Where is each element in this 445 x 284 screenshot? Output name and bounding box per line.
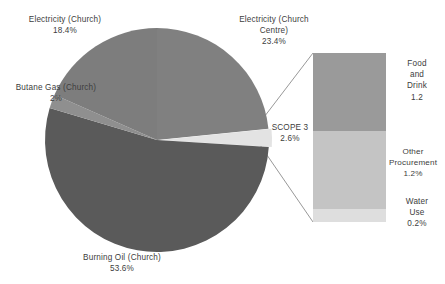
bar-label-food-and-drink-name-3: Drink [390,80,444,91]
pie-label-butane-gas: Butane Gas (Church) 2% [2,82,110,104]
pie-label-electricity-church: Electricity (Church) 18.4% [6,14,124,36]
leader-line-top [258,53,313,125]
bar-segment-food-and-drink [313,53,386,131]
pie-label-butane-gas-name: Butane Gas (Church) [2,82,110,93]
pie-label-burning-oil-value: 53.6% [58,263,186,274]
pie-of-bar-chart: Electricity (Church) 18.4% Electricity (… [0,0,445,284]
bar-label-water-use-name-2: Use [390,207,444,218]
bar-label-other-procurement-name-1: Other [381,146,445,157]
pie [45,28,272,252]
bar-label-other-procurement: Other Procurement 1.2% [381,146,445,180]
pie-label-electricity-church-centre-name-1: Electricity (Church [216,14,332,25]
pie-label-electricity-church-centre-value: 23.4% [216,36,332,47]
bar-label-water-use: Water Use 0.2% [390,196,444,230]
pie-label-scope3-value: 2.6% [253,133,327,144]
pie-label-electricity-church-name: Electricity (Church) [6,14,124,25]
pie-label-electricity-church-centre-name-2: Centre) [216,25,332,36]
pie-label-butane-gas-value: 2% [2,93,110,104]
bar-label-water-use-value: 0.2% [390,218,444,229]
pie-label-burning-oil-name: Burning Oil (Church) [58,252,186,263]
pie-label-electricity-church-value: 18.4% [6,25,124,36]
bar-label-food-and-drink-value: 1.2 [390,92,444,103]
pie-label-electricity-church-centre: Electricity (Church Centre) 23.4% [216,14,332,48]
bar-label-other-procurement-value: 1.2% [381,168,445,179]
pie-label-burning-oil: Burning Oil (Church) 53.6% [58,252,186,274]
bar-label-other-procurement-name-2: Procurement [381,157,445,168]
bar-label-water-use-name-1: Water [390,196,444,207]
pie-label-scope3: SCOPE 3 2.6% [253,122,327,144]
bar-label-food-and-drink-name-2: and [390,69,444,80]
bar-label-food-and-drink-name-1: Food [390,58,444,69]
bar-label-food-and-drink: Food and Drink 1.2 [390,58,444,103]
pie-label-scope3-name: SCOPE 3 [253,122,327,133]
bar-segment-water-use [313,209,386,222]
